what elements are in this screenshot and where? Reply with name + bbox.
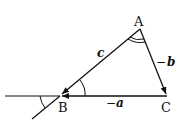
vertex-label-a: A [133, 14, 144, 29]
edge-label-a: a [116, 96, 124, 110]
vertex-label-b: B [58, 100, 68, 115]
edge-label-b-minus: − [156, 55, 166, 69]
angle-mark-b-exterior [40, 96, 45, 108]
triangle-diagram: A B C c − b − a [0, 0, 187, 128]
line-ab-extension [32, 96, 60, 119]
angle-mark-a-inner [130, 37, 144, 40]
angle-mark-b-interior [80, 80, 85, 96]
edge-label-a-minus: − [106, 96, 116, 110]
edge-label-b: b [167, 55, 175, 69]
edge-label-c: c [97, 46, 105, 60]
vertex-label-c: C [161, 100, 171, 115]
